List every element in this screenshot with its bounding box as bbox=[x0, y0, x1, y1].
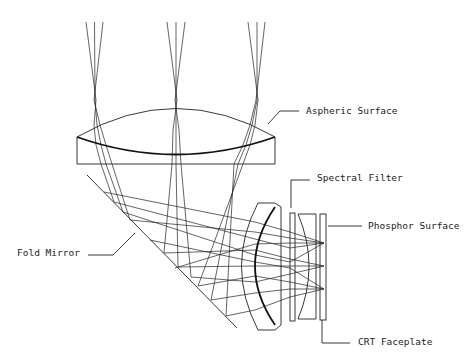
ray bbox=[226, 100, 256, 316]
reflected-rays bbox=[104, 192, 324, 316]
meniscus-lens bbox=[242, 203, 282, 330]
ray bbox=[198, 276, 324, 289]
ray bbox=[164, 250, 324, 266]
ray bbox=[211, 100, 257, 300]
ray bbox=[167, 22, 177, 100]
ray bbox=[94, 100, 114, 202]
ray bbox=[114, 202, 324, 248]
aspheric-surface-leader bbox=[268, 111, 299, 124]
label-fold-mirror: Fold Mirror bbox=[17, 247, 80, 258]
meniscus-bottom-right bbox=[275, 325, 281, 330]
ray bbox=[94, 22, 103, 100]
meniscus-top-right bbox=[275, 203, 281, 207]
fold-mirror-leader bbox=[88, 233, 135, 255]
spectral-filter-leader bbox=[291, 180, 310, 208]
ray bbox=[164, 100, 177, 253]
incoming-rays bbox=[86, 22, 265, 100]
label-phosphor-surface: Phosphor Surface bbox=[368, 220, 460, 231]
ray bbox=[150, 240, 324, 289]
ray bbox=[248, 22, 258, 100]
crt-faceplate-leader bbox=[322, 320, 350, 343]
ray bbox=[178, 266, 324, 267]
ray bbox=[94, 100, 130, 220]
spectral-filter bbox=[290, 213, 295, 321]
label-crt-faceplate: CRT Faceplate bbox=[358, 336, 433, 347]
field-flattener-curve bbox=[298, 214, 309, 319]
ray bbox=[95, 22, 96, 100]
lens-rays bbox=[94, 100, 258, 316]
ray bbox=[226, 289, 324, 316]
ray bbox=[175, 22, 185, 100]
ray bbox=[191, 266, 324, 282]
ray bbox=[176, 100, 178, 267]
label-spectral-filter: Spectral Filter bbox=[317, 172, 403, 183]
optical-diagram: Aspheric Surface Spectral Filter Phospho… bbox=[0, 0, 466, 357]
field-flattener bbox=[298, 214, 316, 319]
label-aspheric-surface: Aspheric Surface bbox=[306, 105, 398, 116]
